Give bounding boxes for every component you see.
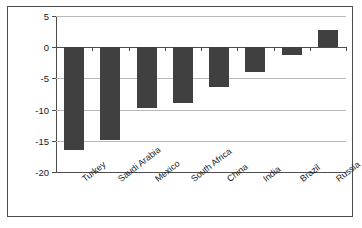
bar — [137, 47, 157, 108]
x-tick-mark — [237, 47, 238, 51]
bar — [318, 30, 338, 47]
bar — [100, 47, 120, 139]
plot-region: 50-5-10-15-20 — [56, 16, 346, 172]
y-tick-mark — [52, 141, 56, 142]
y-tick-label: 5 — [44, 11, 49, 22]
x-tick-mark — [92, 47, 93, 51]
x-tick-mark — [129, 47, 130, 51]
bar — [64, 47, 84, 149]
bar — [209, 47, 229, 87]
gridline — [56, 141, 346, 142]
x-tick-mark — [56, 47, 57, 51]
y-axis-title: Change, 1995–2012 — [16, 0, 34, 35]
y-tick-mark — [52, 16, 56, 17]
y-tick-mark — [52, 110, 56, 111]
y-tick-label: -20 — [35, 167, 49, 178]
x-tick-mark — [165, 47, 166, 51]
x-tick-mark — [346, 47, 347, 51]
x-tick-mark — [274, 47, 275, 51]
gridline — [56, 16, 346, 17]
y-tick-mark — [52, 172, 56, 173]
y-tick-label: -5 — [41, 73, 49, 84]
x-tick-mark — [201, 47, 202, 51]
bar — [245, 47, 265, 72]
y-tick-label: -15 — [35, 135, 49, 146]
y-tick-label: -10 — [35, 104, 49, 115]
y-tick-mark — [52, 78, 56, 79]
x-tick-mark — [310, 47, 311, 51]
y-tick-label: 0 — [44, 42, 49, 53]
bar — [173, 47, 193, 103]
bar — [282, 47, 302, 55]
